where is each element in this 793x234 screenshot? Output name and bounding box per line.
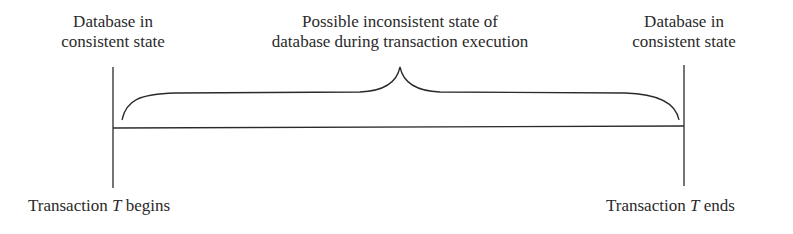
inconsistent-state-label-line1: Possible inconsistent state of [215,12,585,32]
transaction-begins-label: Transaction T begins [28,196,170,216]
end-state-label-line1: Database in [604,12,764,32]
transaction-begins-prefix: Transaction [28,196,112,215]
start-state-label-line1: Database in [33,12,193,32]
transaction-variable: T [112,196,121,215]
inconsistent-state-label: Possible inconsistent state of database … [215,12,585,52]
start-state-label: Database in consistent state [33,12,193,52]
transaction-begins-suffix: begins [121,196,170,215]
transaction-ends-label: Transaction T ends [606,196,735,216]
end-state-label: Database in consistent state [604,12,764,52]
start-state-label-line2: consistent state [33,32,193,52]
transaction-variable: T [690,196,699,215]
transaction-ends-suffix: ends [699,196,734,215]
timeline-axis [113,126,684,128]
curly-brace [122,67,679,120]
inconsistent-state-label-line2: database during transaction execution [215,32,585,52]
transaction-ends-prefix: Transaction [606,196,690,215]
end-state-label-line2: consistent state [604,32,764,52]
